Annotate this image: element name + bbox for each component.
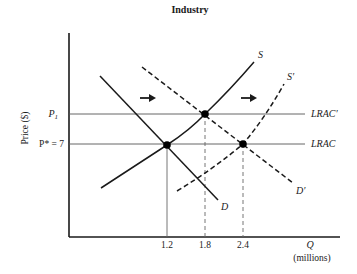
y-axis-label: Price ($) <box>20 112 31 145</box>
x-axis-unit: (millions) <box>293 253 330 264</box>
x-tick-1-8: 1.8 <box>199 240 211 250</box>
d-prime-label: D′ <box>295 185 306 196</box>
chart-title: Industry <box>171 4 208 15</box>
supply-curve-s-prime <box>177 84 284 191</box>
arrow-right-icon <box>241 94 257 102</box>
equilibrium-point-short-run <box>201 110 209 118</box>
equilibrium-point-initial <box>163 141 171 149</box>
arrow-right-icon <box>140 94 156 102</box>
d-label: D <box>220 201 229 212</box>
equilibrium-point-long-run <box>239 140 247 148</box>
s-prime-label: S′ <box>287 71 295 82</box>
industry-chart: Industry Price ($) P1 P* = 7 LRAC′ LRAC … <box>0 0 357 274</box>
demand-curve-d <box>100 76 218 200</box>
p1-label: P1 <box>47 108 58 121</box>
x-tick-2-4: 2.4 <box>237 240 249 250</box>
s-label: S <box>258 49 263 60</box>
supply-curve-s <box>101 62 254 188</box>
x-axis-label: Q <box>306 239 314 250</box>
lrac-label: LRAC <box>310 138 336 149</box>
lrac-prime-label: LRAC′ <box>310 108 338 119</box>
pstar-label: P* = 7 <box>39 139 64 149</box>
demand-curve-d-prime <box>142 67 293 183</box>
x-tick-1-2: 1.2 <box>161 240 173 250</box>
